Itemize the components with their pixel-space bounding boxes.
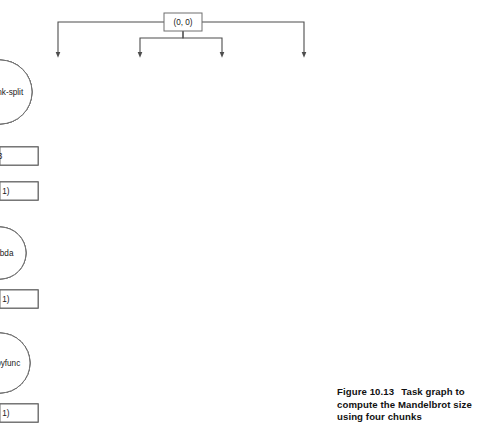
- nodes-layer: (0, 0)rechunk-split0(0, 0)lambda(0, 0)fr…: [0, 13, 202, 422]
- node-root-box-label: (0, 0): [173, 18, 192, 27]
- node-c3-chunk-label: (1, 1): [0, 187, 10, 196]
- node-c3-lambda-label: lambda: [0, 249, 14, 258]
- node-c3-rechunk-label: rechunk-split: [0, 88, 24, 97]
- node-c3-out-label: (1, 1): [0, 409, 10, 418]
- task-graph-canvas: (0, 0)rechunk-split0(0, 0)lambda(0, 0)fr…: [0, 0, 498, 446]
- figure-caption: Figure 10.13Task graph to compute the Ma…: [337, 386, 492, 424]
- node-c3-mid-label: (1, 1): [0, 295, 10, 304]
- node-c3-frompy-label: frompyfunc: [0, 359, 20, 368]
- node-c3-key[interactable]: [0, 147, 38, 165]
- edge-root-to-col1: [140, 31, 183, 55]
- edge-root-to-col2: [183, 31, 222, 55]
- figure-caption-number: Figure 10.13: [337, 386, 394, 397]
